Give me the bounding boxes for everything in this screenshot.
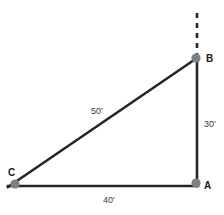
side-cb-line — [8, 58, 197, 187]
vertex-label-b: B — [206, 54, 213, 64]
vertex-marker-c — [10, 179, 19, 188]
side-length-label-ca: 40' — [103, 196, 115, 205]
vertex-marker-a — [191, 178, 200, 187]
triangle-figure-canvas — [0, 0, 224, 215]
vertex-marker-b — [191, 53, 200, 62]
side-length-label-cb: 50' — [91, 107, 103, 116]
triangle-diagram: A B C 30' 40' 50' — [0, 0, 224, 215]
side-length-label-ab: 30' — [204, 120, 216, 129]
vertex-label-a: A — [204, 181, 211, 191]
vertex-label-c: C — [8, 168, 15, 178]
